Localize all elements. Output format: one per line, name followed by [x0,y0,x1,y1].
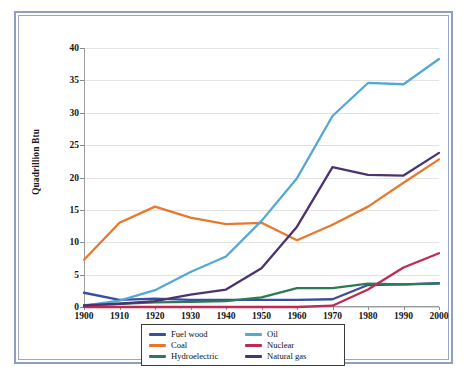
legend-label: Oil [267,329,278,339]
legend-label: Natural gas [267,351,306,361]
legend-item[interactable]: Nuclear [245,340,337,350]
series-lines [84,48,439,307]
x-axis-tick-label: 1900 [75,311,94,321]
legend-item[interactable]: Hydroelectric [149,351,241,361]
legend-label: Nuclear [267,340,294,350]
y-axis-tick-label: 35 [70,75,80,85]
legend-color-swatch [245,333,262,336]
legend-item[interactable]: Natural gas [245,351,337,361]
legend-color-swatch [149,355,166,358]
series-line-natural-gas [84,153,439,305]
legend-label: Hydroelectric [171,351,218,361]
legend-item[interactable]: Oil [245,329,337,339]
x-axis-tick-label: 1930 [181,311,200,321]
x-axis-tick-label: 1960 [288,311,307,321]
y-axis-tick-label: 40 [70,43,80,53]
x-axis-tick-label: 1940 [217,311,236,321]
x-axis-tick-mark [333,307,334,310]
plot-area: Quadrillion Btu 0510152025303540 1900191… [22,19,445,356]
legend-item[interactable]: Coal [149,340,241,350]
legend-grid: Fuel woodOilCoalNuclearHydroelectricNatu… [149,329,337,361]
y-axis-title: Quadrillion Btu [28,57,44,267]
chart-plot: 0510152025303540 19001910192019301940195… [84,48,439,307]
y-axis-tick-label: 10 [70,237,80,247]
x-axis-tick-label: 1980 [359,311,378,321]
legend-color-swatch [149,344,166,347]
legend-color-swatch [245,355,262,358]
legend-color-swatch [245,344,262,347]
chart-legend: Fuel woodOilCoalNuclearHydroelectricNatu… [141,324,345,366]
x-axis-tick-mark [439,307,440,310]
y-axis-tick-label: 5 [74,270,79,280]
legend-item[interactable]: Fuel wood [149,329,241,339]
legend-color-swatch [149,333,166,336]
x-axis-tick-label: 1910 [110,311,129,321]
y-axis-tick-label: 20 [70,173,80,183]
y-axis-tick-label: 25 [70,140,80,150]
y-axis-tick-label: 30 [70,108,80,118]
x-axis-tick-mark [404,307,405,310]
x-axis-tick-label: 1970 [323,311,342,321]
y-axis-tick-label: 15 [70,205,80,215]
x-axis-tick-label: 1950 [252,311,271,321]
chart-figure: Quadrillion Btu 0510152025303540 1900191… [0,0,467,376]
x-axis-tick-label: 1990 [394,311,413,321]
legend-label: Coal [171,340,187,350]
y-axis-title-text: Quadrillion Btu [31,129,41,195]
x-axis-tick-label: 1920 [146,311,165,321]
legend-label: Fuel wood [171,329,208,339]
x-axis-tick-mark [368,307,369,310]
x-axis-tick-label: 2000 [430,311,449,321]
